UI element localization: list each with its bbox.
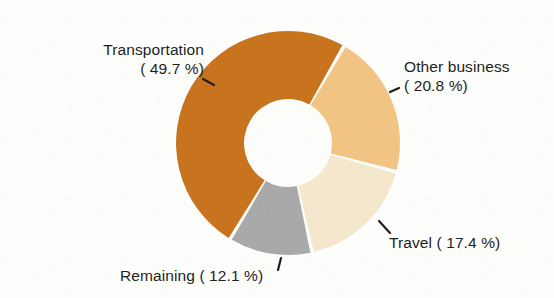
donut-slices (176, 31, 400, 255)
leader-line-remaining (278, 258, 281, 270)
slice-label-other-business: Other business ( 20.8 %) (404, 57, 510, 95)
slice-label-travel-text: Travel ( 17.4 %) (389, 233, 500, 252)
slice-label-remaining-text: Remaining ( 12.1 %) (120, 266, 263, 285)
slice-label-transportation-value: ( 49.7 %) (74, 59, 204, 78)
leader-line-other-business (390, 88, 399, 92)
slice-label-remaining: Remaining ( 12.1 %) (120, 266, 263, 285)
slice-label-other-business-name: Other business (404, 57, 510, 76)
slice-label-other-business-value: ( 20.8 %) (404, 76, 510, 95)
slice-label-travel: Travel ( 17.4 %) (389, 233, 500, 252)
leader-line-travel (379, 221, 390, 233)
donut-chart: Transportation ( 49.7 %) Other business … (0, 0, 554, 298)
slice-label-transportation: Transportation ( 49.7 %) (74, 40, 204, 78)
donut-slice-travel[interactable] (298, 155, 396, 252)
slice-label-transportation-name: Transportation (74, 40, 204, 59)
